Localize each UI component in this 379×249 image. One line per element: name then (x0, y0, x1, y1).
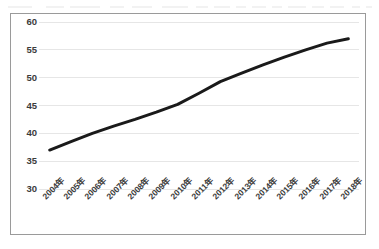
text-smudge (70, 6, 100, 8)
text-smudge (214, 6, 230, 8)
text-smudge (236, 6, 246, 8)
y-axis-tick-label: 60 (11, 17, 37, 27)
text-smudge (330, 6, 344, 8)
plot-area: 30354045505560 2004年2005年2006年2007年2008年… (11, 14, 367, 236)
y-axis-tick-label: 45 (11, 101, 37, 111)
y-axis-tick-label: 50 (11, 73, 37, 83)
text-smudge (288, 6, 306, 8)
text-smudge (252, 6, 266, 8)
text-smudge (110, 6, 124, 8)
text-smudge (366, 6, 372, 8)
cropped-text-artifact-strip (0, 0, 379, 10)
text-smudge (162, 6, 188, 8)
text-smudge (46, 6, 64, 8)
text-smudge (352, 6, 360, 8)
text-smudge (312, 6, 324, 8)
y-axis-tick-label: 35 (11, 156, 37, 166)
text-smudge (196, 6, 208, 8)
chart-frame: 30354045505560 2004年2005年2006年2007年2008年… (10, 13, 366, 235)
y-axis-tick-label: 30 (11, 184, 37, 194)
text-smudge (8, 6, 32, 8)
y-axis-tick-label: 40 (11, 128, 37, 138)
line-chart-svg (11, 14, 367, 236)
y-axis-tick-label: 55 (11, 45, 37, 55)
text-smudge (132, 6, 152, 8)
text-smudge (272, 6, 282, 8)
